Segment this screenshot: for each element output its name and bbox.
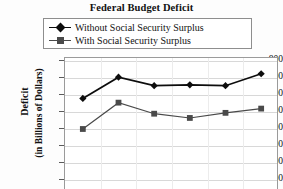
chart-title: Federal Budget Deficit xyxy=(0,2,283,13)
data-point-s2-1 xyxy=(80,126,86,132)
plot-area xyxy=(64,57,278,189)
data-point-s2-5 xyxy=(223,110,229,116)
legend-label-without-surplus: Without Social Security Surplus xyxy=(75,22,204,34)
diamond-marker-icon xyxy=(49,22,71,33)
legend-item-without-surplus[interactable]: Without Social Security Surplus xyxy=(49,21,251,34)
data-point-s1-5 xyxy=(222,82,229,89)
data-point-s2-6 xyxy=(258,106,264,112)
y-axis-title-secondary: (in Billions of Dollars) xyxy=(34,58,44,168)
y-axis-title-primary: Deficit xyxy=(19,62,30,142)
chart-container: Federal Budget Deficit Without Social Se… xyxy=(0,0,283,189)
data-point-s1-4 xyxy=(186,81,193,88)
square-marker-icon xyxy=(49,35,71,46)
chart-plot-svg xyxy=(65,58,278,189)
legend-label-with-surplus: With Social Security Surplus xyxy=(75,35,191,47)
data-point-s2-3 xyxy=(151,111,157,117)
data-point-s2-2 xyxy=(116,100,122,106)
data-point-s2-4 xyxy=(187,115,193,121)
chart-legend: Without Social Security Surplus With Soc… xyxy=(43,18,252,49)
data-point-s1-3 xyxy=(151,82,158,89)
data-point-s1-6 xyxy=(258,70,265,77)
legend-item-with-surplus[interactable]: With Social Security Surplus xyxy=(49,34,251,47)
